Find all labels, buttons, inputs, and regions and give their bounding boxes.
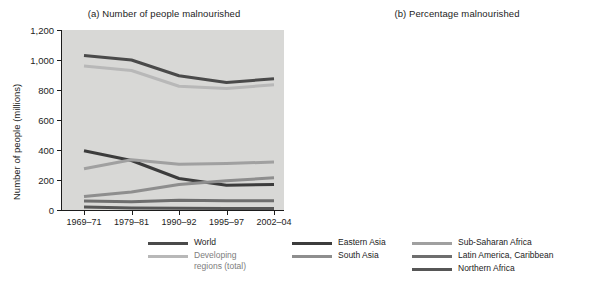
y-tick-label: 0: [49, 205, 54, 216]
legend-swatch: [412, 268, 452, 271]
y-tick-label: 1,000: [30, 55, 54, 66]
legend-swatch: [148, 242, 188, 245]
y-tick-label: 800: [38, 85, 54, 96]
chart-panel-b: (b) Percentage malnourished Percentage 0…: [300, 0, 596, 236]
x-tick: [179, 210, 180, 215]
y-tick-label: 1,200: [30, 25, 54, 36]
legend-swatch: [292, 255, 332, 258]
series-line: [84, 207, 274, 209]
legend-item[interactable]: Northern Africa: [412, 264, 592, 276]
y-tick-label: 200: [38, 175, 54, 186]
y-tick-label: 600: [38, 115, 54, 126]
x-tick: [274, 210, 275, 215]
x-tick-label: 1979–81: [114, 217, 149, 227]
legend-label: Northern Africa: [458, 263, 515, 274]
legend-label: Eastern Asia: [338, 237, 386, 248]
chart-panel-a: (a) Number of people malnourished Number…: [0, 0, 300, 236]
x-tick-label: 1995–97: [209, 217, 244, 227]
legend-item[interactable]: Eastern Asia: [292, 238, 402, 250]
legend-column-2: Eastern AsiaSouth Asia: [292, 238, 402, 264]
legend-item[interactable]: Latin America, Caribbean: [412, 251, 592, 263]
panel-b-title: (b) Percentage malnourished: [300, 8, 596, 19]
panel-a-title: (a) Number of people malnourished: [0, 8, 300, 19]
x-tick-label: 1969–71: [66, 217, 101, 227]
legend-item[interactable]: Sub-Saharan Africa: [412, 238, 592, 250]
legend-swatch: [412, 255, 452, 258]
legend-item[interactable]: South Asia: [292, 251, 402, 263]
legend-column-1: WorldDeveloping regions (total): [148, 238, 268, 275]
y-tick: [57, 90, 62, 91]
legend-label: Latin America, Caribbean: [458, 250, 553, 261]
y-tick: [57, 60, 62, 61]
series-line: [84, 200, 274, 202]
series-line: [84, 160, 274, 169]
panel-a-y-axis-label: Number of people (millions): [11, 84, 22, 200]
y-tick: [57, 120, 62, 121]
panel-a-series-lines: [62, 30, 284, 210]
y-tick-label: 400: [38, 145, 54, 156]
x-tick-label: 2002–04: [256, 217, 291, 227]
legend-swatch: [292, 242, 332, 245]
legend-label: Sub-Saharan Africa: [458, 237, 532, 248]
legend-swatch: [148, 255, 188, 258]
x-tick: [132, 210, 133, 215]
chart-legend: WorldDeveloping regions (total) Eastern …: [0, 238, 596, 288]
legend-label: Developing regions (total): [194, 250, 246, 272]
legend-label: South Asia: [338, 250, 379, 261]
x-tick: [84, 210, 85, 215]
y-tick: [57, 180, 62, 181]
x-tick: [227, 210, 228, 215]
legend-swatch: [412, 242, 452, 245]
legend-item[interactable]: World: [148, 238, 268, 250]
series-line: [84, 178, 274, 197]
y-tick: [57, 150, 62, 151]
legend-label: World: [194, 237, 216, 248]
x-tick-label: 1990–92: [161, 217, 196, 227]
legend-column-3: Sub-Saharan AfricaLatin America, Caribbe…: [412, 238, 592, 277]
figure-root: (a) Number of people malnourished Number…: [0, 0, 596, 288]
panel-a-plot-area: 02004006008001,0001,2001969–711979–81199…: [62, 30, 284, 210]
y-tick: [57, 30, 62, 31]
legend-item[interactable]: Developing regions (total): [148, 251, 268, 274]
y-tick: [57, 210, 62, 211]
